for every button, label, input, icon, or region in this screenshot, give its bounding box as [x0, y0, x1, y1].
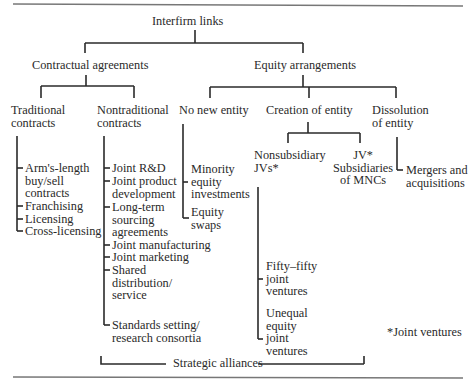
node-nontraditional-contracts: Nontraditional contracts [97, 104, 169, 129]
root-node: Interfirm links [152, 15, 223, 28]
node-contractual-agreements: Contractual agreements [32, 59, 148, 72]
node-creation-of-entity: Creation of entity [266, 104, 353, 117]
node-dissolution-of-entity: Dissolution of entity [372, 104, 429, 129]
interfirm-links-diagram: Interfirm links Contractual agreements E… [0, 0, 473, 385]
node-jv-subsidiaries: JV* Subsidiaries of MNCs [333, 149, 393, 187]
item-unequal-equity: Unequal equity joint ventures [266, 307, 308, 357]
item-joint-product-development: Joint product development [112, 175, 177, 200]
item-minority-equity: Minority equity investments [191, 163, 250, 201]
item-cross-licensing: Cross-licensing [25, 225, 102, 238]
item-joint-marketing: Joint marketing [112, 251, 189, 264]
item-mergers-acquisitions: Mergers and acquisitions [406, 164, 468, 189]
footnote: *Joint ventures [387, 326, 462, 339]
item-standards-setting: Standards setting/ research consortia [112, 319, 201, 344]
item-joint-rd: Joint R&D [112, 162, 166, 175]
item-arms-length: Arm's-length buy/sell contracts [25, 162, 89, 200]
node-equity-arrangements: Equity arrangements [254, 59, 356, 72]
strategic-alliances-label: Strategic alliances [173, 357, 263, 370]
item-fifty-fifty: Fifty–fifty joint ventures [266, 260, 317, 298]
node-nonsubsidiary-jvs: Nonsubsidiary JVs* [254, 149, 326, 174]
item-shared-distribution: Shared distribution/ service [112, 264, 172, 302]
item-long-term-sourcing: Long-term sourcing agreements [112, 201, 168, 239]
node-traditional-contracts: Traditional contracts [11, 104, 65, 129]
node-no-new-entity: No new entity [179, 104, 249, 117]
item-equity-swaps: Equity swaps [191, 206, 224, 231]
item-franchising: Franchising [25, 200, 83, 213]
